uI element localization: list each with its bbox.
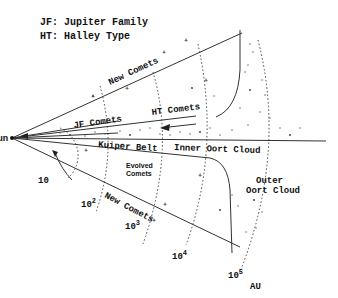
comet-dot (261, 79, 262, 80)
comet-plus-marker: + (204, 77, 208, 84)
evolved-comets-label-2: Comets (126, 170, 152, 177)
comet-dot (249, 89, 251, 91)
comet-dot (84, 135, 85, 136)
distance-arcs (60, 40, 269, 272)
kuiper-belt-label: Kuiper Belt (98, 140, 158, 154)
comet-plus-marker: + (152, 217, 156, 224)
comet-dot (149, 127, 150, 128)
comet-dot (247, 64, 248, 65)
comet-dot (249, 43, 250, 44)
comet-plus-marker: + (125, 85, 129, 92)
comet-dot (189, 133, 190, 134)
comet-dot (199, 131, 201, 133)
comet-dot (219, 134, 220, 135)
arc-100000 (240, 40, 269, 272)
comet-dot (169, 134, 170, 135)
legend-jf: JF: Jupiter Family (40, 17, 148, 28)
comet-dot (279, 127, 280, 128)
scale-label-100: 102 (81, 197, 96, 210)
midplane-line (12, 138, 326, 141)
orbit-lines (12, 30, 326, 253)
legend-ht: HT: Halley Type (40, 31, 130, 42)
comet-dot (94, 131, 95, 132)
scale-label-10000: 104 (172, 249, 187, 262)
comet-dot (264, 94, 265, 95)
comet-dot (219, 209, 221, 211)
comet-dot (69, 134, 71, 136)
comet-dot (261, 211, 262, 212)
comet-dot (139, 129, 140, 130)
outer-oort-label-2: Oort Cloud (246, 186, 300, 196)
scale-label-10: 10 (38, 176, 49, 186)
comet-dot (269, 117, 270, 118)
scale-label-1000: 103 (125, 219, 140, 232)
comet-plus-marker: + (84, 147, 88, 154)
scale-label-100000: 105 (228, 268, 243, 281)
comet-dot (231, 129, 232, 130)
comet-dot (191, 87, 193, 89)
comet-dot (231, 194, 232, 195)
comet-plus-marker: + (91, 93, 95, 100)
comet-dot (299, 127, 300, 128)
comet-dot (252, 51, 253, 52)
comet-dot (213, 95, 214, 96)
comet-dot (179, 131, 180, 132)
comet-dot (59, 132, 60, 133)
jf-comets-label: JF Comets (73, 114, 123, 131)
comet-dot (255, 227, 256, 228)
new-comets-arrow-curve (55, 153, 72, 180)
comet-dot (239, 107, 240, 108)
inner-oort-label: Inner Oort Cloud (174, 143, 261, 156)
comet-dot (259, 111, 260, 112)
comet-dot (129, 134, 131, 136)
comet-plus-marker: + (163, 201, 167, 208)
inner-oort-boundary-bottom (210, 158, 232, 253)
comet-dot (119, 130, 120, 131)
comet-plus-marker: + (162, 49, 166, 56)
ht-arrow-shaft (169, 124, 196, 127)
new-comets-arrow-head (52, 150, 58, 157)
comet-dot (247, 124, 248, 125)
distance-scale-labels: 10 102 103 104 105 AU (38, 176, 261, 292)
comet-dot (244, 71, 245, 72)
comet-dot (237, 205, 238, 206)
comet-dot (253, 199, 255, 201)
sun-label: Sun (0, 134, 8, 144)
evolved-comets-label-1: Evolved (126, 162, 153, 169)
sun-icon (10, 136, 14, 140)
ht-comets-label: HT Comets (151, 102, 200, 118)
comet-plus-marker: + (198, 172, 202, 179)
ht-arrow-head (160, 124, 170, 131)
outer-oort-label-1: Outer (256, 176, 283, 186)
comet-dot (209, 127, 210, 128)
unit-label: AU (250, 282, 261, 292)
comet-plus-marker: + (184, 37, 188, 44)
comet-reservoir-diagram: JF: Jupiter Family HT: Halley Type Sun N… (0, 0, 338, 298)
comet-dot (104, 133, 105, 134)
comet-dot (289, 134, 291, 136)
comet-dot (245, 231, 246, 232)
new-comets-bottom-label: New Comets (103, 191, 155, 225)
comet-dot (159, 133, 160, 134)
